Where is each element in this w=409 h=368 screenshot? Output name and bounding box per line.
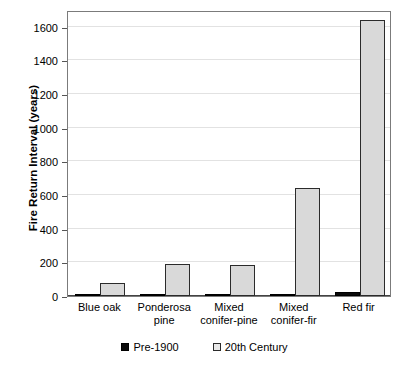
bar-group	[68, 12, 133, 296]
x-label-red-fir: Red fir	[326, 301, 391, 314]
y-tick-label-400: 400	[40, 224, 58, 236]
y-tick-label-1000: 1000	[34, 123, 58, 135]
bar-group	[198, 12, 263, 296]
y-tick-label-1200: 1200	[34, 89, 58, 101]
bar-20th-century	[295, 188, 320, 296]
bar-20th-century	[165, 264, 190, 296]
legend-swatch-icon	[121, 343, 129, 351]
chart-legend: Pre-190020th Century	[0, 341, 409, 353]
x-label-blue-oak: Blue oak	[67, 301, 132, 314]
bar-pre-1900	[75, 294, 100, 296]
x-label-ponderosa-pine: Ponderosapine	[132, 301, 197, 327]
fire-return-interval-chart: Fire Return Interval (years) 02004006008…	[0, 0, 409, 368]
bar-pre-1900	[140, 294, 165, 296]
bar-pre-1900	[205, 294, 230, 296]
bar-group	[133, 12, 198, 296]
bar-20th-century	[100, 283, 125, 296]
y-tick-label-200: 200	[40, 257, 58, 269]
y-tick-label-0: 0	[52, 291, 58, 303]
y-tick-label-600: 600	[40, 190, 58, 202]
bar-pre-1900	[335, 292, 360, 296]
legend-label: 20th Century	[225, 341, 288, 353]
bar-20th-century	[230, 265, 255, 296]
legend-label: Pre-1900	[133, 341, 178, 353]
legend-item-20th-century[interactable]: 20th Century	[213, 341, 288, 353]
plot-area	[67, 11, 391, 297]
bar-pre-1900	[270, 294, 295, 296]
x-label-mixed-conifer-fir: Mixedconifer-fir	[261, 301, 326, 327]
y-tick-label-800: 800	[40, 156, 58, 168]
x-label-mixed-conifer-pine: Mixedconifer-pine	[197, 301, 262, 327]
x-axis-category-labels: Blue oakPonderosapineMixedconifer-pineMi…	[67, 301, 391, 335]
bar-group	[327, 12, 391, 296]
y-tick-label-1400: 1400	[34, 55, 58, 67]
legend-item-pre-1900[interactable]: Pre-1900	[121, 341, 178, 353]
legend-swatch-icon	[213, 343, 221, 351]
y-tick-mark-0	[62, 297, 67, 298]
bar-20th-century	[360, 20, 385, 296]
bar-group	[262, 12, 327, 296]
y-axis-tick-labels: 02004006008001000120014001600	[0, 0, 62, 368]
bar-groups	[68, 12, 390, 296]
y-tick-label-1600: 1600	[34, 22, 58, 34]
